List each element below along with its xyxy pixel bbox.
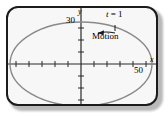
x-tick-label-50: 50	[134, 66, 143, 75]
t-value: = 1	[109, 9, 123, 19]
x-axis-label: x	[150, 56, 154, 64]
calculator-screen	[8, 8, 156, 104]
y-axis-label: y	[78, 8, 82, 16]
t-equals-1-label: t = 1	[106, 10, 123, 19]
motion-label: Motion	[92, 32, 119, 41]
calculator-frame	[6, 6, 158, 106]
parametric-ellipse-figure: y x 30 50 t = 1 Motion	[0, 0, 168, 116]
y-tick-label-30: 30	[66, 16, 75, 25]
plot-svg	[8, 8, 156, 104]
